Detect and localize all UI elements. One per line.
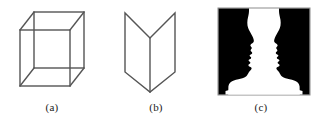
figure-cell-a: (a) (0, 0, 104, 131)
cube-back-face (34, 12, 84, 68)
figure-caption-c: (c) (208, 100, 314, 114)
cube-edge-tr (70, 12, 84, 30)
figure-cell-b: (b) (104, 0, 208, 131)
figure-cell-c: (c) (208, 0, 314, 131)
cube-edge-tl (20, 12, 34, 30)
folded-card-figure (104, 0, 208, 100)
cube-edge-bl (20, 68, 34, 86)
figure-caption-b: (b) (104, 100, 208, 114)
rubin-vase-faces (208, 0, 314, 100)
ambiguous-figures-panel: (a) (b) (0, 0, 314, 131)
figure-caption-a: (a) (0, 100, 104, 114)
cube-edge-br (70, 68, 84, 86)
cube-front-face (20, 30, 70, 86)
necker-cube (0, 0, 104, 100)
